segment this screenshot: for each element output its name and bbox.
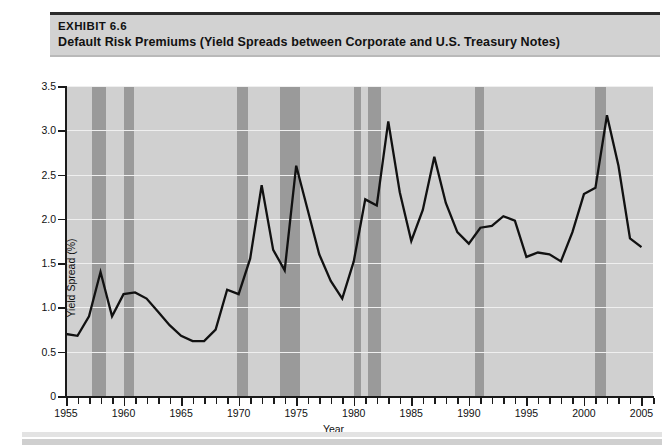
- x-axis-tick-major: [181, 398, 183, 406]
- x-axis-tick-minor: [135, 398, 137, 404]
- x-axis-tick-major: [124, 398, 126, 406]
- x-axis: [65, 396, 654, 398]
- x-axis-tick-label: 2005: [621, 407, 661, 419]
- exhibit-title: Default Risk Premiums (Yield Spreads bet…: [58, 34, 660, 50]
- x-axis-tick-minor: [89, 398, 91, 404]
- x-axis-tick-minor: [147, 398, 149, 404]
- x-axis-tick-minor: [365, 398, 367, 404]
- x-axis-tick-minor: [561, 398, 563, 404]
- footer-bar-light: [22, 432, 662, 437]
- y-axis-title: Yield Spread (%): [65, 213, 77, 343]
- x-axis-tick-label: 1960: [104, 407, 144, 419]
- series-polyline: [66, 115, 641, 341]
- x-axis-tick-minor: [78, 398, 80, 404]
- x-axis-tick-label: 1985: [391, 407, 431, 419]
- y-axis-tick: [58, 219, 65, 221]
- x-axis-tick-minor: [170, 398, 172, 404]
- x-axis-tick-major: [526, 398, 528, 406]
- y-axis-tick: [58, 396, 65, 398]
- x-axis-tick-major: [584, 398, 586, 406]
- y-axis-tick-label: 3.5: [10, 81, 56, 91]
- x-axis-tick-major: [239, 398, 241, 406]
- x-axis-tick-minor: [457, 398, 459, 404]
- x-axis-tick-minor: [342, 398, 344, 404]
- x-axis-tick-minor: [400, 398, 402, 404]
- x-axis-tick-minor: [480, 398, 482, 404]
- x-axis-tick-minor: [538, 398, 540, 404]
- x-axis-tick-label: 2000: [564, 407, 604, 419]
- x-axis-tick-minor: [250, 398, 252, 404]
- x-axis-tick-label: 1970: [219, 407, 259, 419]
- exhibit-label: EXHIBIT 6.6: [58, 19, 660, 33]
- x-axis-tick-minor: [112, 398, 114, 404]
- x-axis-tick-label: 1980: [334, 407, 374, 419]
- plot-area: [66, 86, 653, 396]
- x-axis-tick-minor: [549, 398, 551, 404]
- y-axis-tick: [58, 130, 65, 132]
- x-axis-tick-minor: [216, 398, 218, 404]
- x-axis-tick-minor: [607, 398, 609, 404]
- x-axis-tick-minor: [285, 398, 287, 404]
- x-axis-tick-label: 1955: [46, 407, 86, 419]
- y-axis-tick-label: 0.5: [10, 347, 56, 357]
- x-axis-tick-major: [296, 398, 298, 406]
- x-axis-tick-minor: [572, 398, 574, 404]
- y-axis-tick-label: 3.0: [10, 125, 56, 135]
- x-axis-tick-minor: [319, 398, 321, 404]
- x-axis-tick-label: 1995: [506, 407, 546, 419]
- x-axis-tick-minor: [630, 398, 632, 404]
- x-axis-tick-minor: [101, 398, 103, 404]
- x-axis-tick-major: [469, 398, 471, 406]
- x-axis-tick-minor: [492, 398, 494, 404]
- x-axis-tick-minor: [204, 398, 206, 404]
- header-bottom-rule: [50, 55, 660, 57]
- x-axis-tick-major: [641, 398, 643, 406]
- x-axis-tick-minor: [388, 398, 390, 404]
- x-axis-tick-major: [411, 398, 413, 406]
- y-axis-tick-label: 1.0: [10, 302, 56, 312]
- y-axis-tick-label: 1.5: [10, 258, 56, 268]
- x-axis-tick-major: [66, 398, 68, 406]
- yield-spread-line: [66, 86, 653, 396]
- x-axis-tick-minor: [595, 398, 597, 404]
- y-axis-tick: [58, 352, 65, 354]
- y-axis-tick-label: 2.5: [10, 170, 56, 180]
- x-axis-tick-minor: [331, 398, 333, 404]
- y-axis-tick: [58, 175, 65, 177]
- x-axis-tick-label: 1975: [276, 407, 316, 419]
- x-axis-tick-label: 1990: [449, 407, 489, 419]
- x-axis-tick-minor: [446, 398, 448, 404]
- x-axis-tick-minor: [193, 398, 195, 404]
- x-axis-tick-major: [354, 398, 356, 406]
- chart-canvas: 00.51.01.52.02.53.03.5 19551960196519701…: [0, 62, 667, 417]
- x-axis-tick-minor: [653, 398, 655, 404]
- x-axis-tick-minor: [423, 398, 425, 404]
- x-axis-tick-minor: [227, 398, 229, 404]
- y-axis-tick: [58, 86, 65, 88]
- x-axis-tick-minor: [515, 398, 517, 404]
- x-axis-tick-minor: [273, 398, 275, 404]
- y-axis-tick: [58, 263, 65, 265]
- x-axis-tick-label: 1965: [161, 407, 201, 419]
- x-axis-tick-minor: [262, 398, 264, 404]
- x-axis-tick-minor: [308, 398, 310, 404]
- y-axis-tick: [58, 307, 65, 309]
- y-axis-tick-label: 2.0: [10, 214, 56, 224]
- x-axis-tick-minor: [618, 398, 620, 404]
- exhibit-header: EXHIBIT 6.6 Default Risk Premiums (Yield…: [50, 15, 660, 55]
- x-axis-tick-minor: [158, 398, 160, 404]
- exhibit-figure: EXHIBIT 6.6 Default Risk Premiums (Yield…: [0, 0, 667, 448]
- x-axis-tick-minor: [377, 398, 379, 404]
- y-axis-tick-label: 0: [10, 391, 56, 401]
- y-axis-labels: 00.51.01.52.02.53.03.5: [0, 62, 56, 417]
- x-axis-tick-minor: [434, 398, 436, 404]
- x-axis-tick-minor: [503, 398, 505, 404]
- footer-bar-dark: [22, 439, 662, 445]
